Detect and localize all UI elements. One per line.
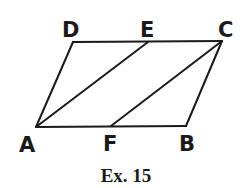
label-b: B	[179, 132, 195, 156]
label-d: D	[62, 18, 79, 42]
segment-da	[36, 42, 73, 127]
segment-ae	[36, 42, 148, 127]
label-f: F	[103, 132, 117, 156]
label-e: E	[140, 18, 154, 42]
label-a: A	[19, 133, 36, 157]
figure-caption: Ex. 15	[101, 165, 152, 186]
segment-fc	[111, 41, 222, 126]
parallelogram-diagram: D E C A F B Ex. 15	[0, 0, 242, 188]
label-c: C	[218, 18, 233, 42]
